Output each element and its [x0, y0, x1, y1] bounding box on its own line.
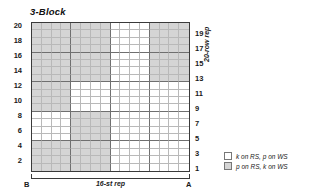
chart-cell	[169, 75, 179, 82]
chart-cell	[179, 75, 189, 82]
chart-cell	[111, 53, 121, 60]
chart-cell	[42, 45, 52, 52]
vertical-rep-label: 20-row rep	[203, 27, 210, 62]
chart-cell	[111, 112, 121, 119]
chart-cell	[130, 30, 140, 37]
chart-cell	[140, 104, 150, 111]
chart-cell	[179, 149, 189, 156]
chart-cell	[160, 104, 170, 111]
chart-cell	[101, 97, 111, 104]
chart-cell	[71, 53, 81, 60]
chart-cell	[150, 82, 160, 89]
chart-cell	[169, 164, 179, 171]
row-number-left: 10	[14, 97, 25, 105]
chart-cell	[32, 164, 42, 171]
chart-cell	[120, 164, 130, 171]
row-number-left: 6	[18, 127, 25, 135]
chart-cell	[32, 119, 42, 126]
chart-cell	[120, 67, 130, 74]
chart-cell	[160, 38, 170, 45]
chart-cell	[81, 164, 91, 171]
chart-cell	[160, 90, 170, 97]
chart-cell	[150, 141, 160, 148]
chart-cell	[61, 90, 71, 97]
chart-cell	[179, 97, 189, 104]
legend-label: k on RS, p on WS	[236, 153, 288, 160]
chart-cell	[150, 90, 160, 97]
chart-cell	[61, 30, 71, 37]
chart-cell	[169, 38, 179, 45]
chart-cell	[169, 60, 179, 67]
chart-cell	[61, 104, 71, 111]
chart-cell	[32, 60, 42, 67]
chart-cell	[81, 45, 91, 52]
chart-cell	[169, 90, 179, 97]
chart-cell	[52, 23, 62, 30]
chart-cell	[120, 104, 130, 111]
row-number-right: 11	[192, 90, 203, 98]
chart-cell	[42, 23, 52, 30]
chart-cell	[71, 97, 81, 104]
chart-cell	[169, 23, 179, 30]
row-number-left: 18	[14, 37, 25, 45]
chart-cell	[71, 23, 81, 30]
chart-cell	[52, 141, 62, 148]
chart-cell	[150, 164, 160, 171]
row-number-left: 12	[14, 82, 25, 90]
chart-cell	[140, 90, 150, 97]
chart-cell	[101, 30, 111, 37]
chart-cell	[32, 97, 42, 104]
chart-cell	[101, 164, 111, 171]
chart-cell	[101, 60, 111, 67]
chart-cell	[120, 75, 130, 82]
chart-cell	[150, 30, 160, 37]
chart-cell	[91, 75, 101, 82]
chart-cell	[91, 82, 101, 89]
chart-cell	[130, 112, 140, 119]
chart-cell	[111, 119, 121, 126]
chart-cell	[91, 104, 101, 111]
chart-cell	[91, 53, 101, 60]
chart-cell	[111, 127, 121, 134]
chart-cell	[111, 38, 121, 45]
chart-cell	[111, 134, 121, 141]
chart-cell	[111, 90, 121, 97]
chart-cell	[120, 156, 130, 163]
chart-cell	[52, 60, 62, 67]
chart-cell	[169, 112, 179, 119]
chart-cell	[111, 97, 121, 104]
chart-cell	[169, 156, 179, 163]
chart-cell	[111, 45, 121, 52]
chart-cell	[42, 112, 52, 119]
chart-cell	[160, 23, 170, 30]
chart-cell	[61, 82, 71, 89]
chart-cell	[130, 97, 140, 104]
chart-cell	[120, 119, 130, 126]
stitch-chart	[31, 22, 190, 172]
chart-cell	[101, 82, 111, 89]
chart-cell	[32, 38, 42, 45]
chart-cell	[71, 119, 81, 126]
chart-cell	[91, 30, 101, 37]
chart-cell	[150, 134, 160, 141]
chart-cell	[120, 149, 130, 156]
chart-cell	[81, 97, 91, 104]
row-number-left: 16	[14, 52, 25, 60]
chart-cell	[91, 112, 101, 119]
chart-cell	[71, 112, 81, 119]
chart-cell	[179, 53, 189, 60]
chart-cell	[52, 97, 62, 104]
chart-cell	[120, 134, 130, 141]
row-number-right: 5	[192, 135, 199, 143]
chart-cell	[61, 127, 71, 134]
chart-cell	[81, 134, 91, 141]
chart-cell	[52, 104, 62, 111]
chart-cell	[120, 30, 130, 37]
legend-item: p on RS, k on WS	[224, 162, 310, 170]
chart-cell	[179, 127, 189, 134]
chart-cell	[32, 30, 42, 37]
chart-cell	[150, 23, 160, 30]
chart-cell	[160, 127, 170, 134]
chart-cell	[160, 45, 170, 52]
chart-cell	[91, 119, 101, 126]
